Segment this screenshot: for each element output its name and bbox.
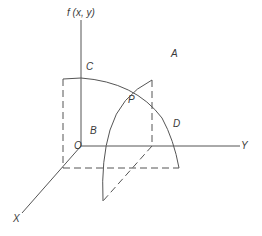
surface-diagram: f (x, y) C A P B D O Y X (0, 0, 262, 236)
point-d-label: D (173, 118, 180, 129)
x-axis (22, 146, 81, 213)
point-b-label: B (90, 125, 97, 136)
point-p-label: P (128, 94, 135, 105)
surface-curve-c (63, 78, 179, 168)
dashed-diagonal (103, 146, 152, 201)
f-axis-label: f (x, y) (67, 7, 95, 18)
y-axis-label: Y (241, 140, 249, 151)
x-axis-label: X (12, 213, 20, 224)
point-a-label: A (170, 48, 178, 59)
point-c-label: C (86, 61, 94, 72)
origin-label: O (74, 140, 82, 151)
